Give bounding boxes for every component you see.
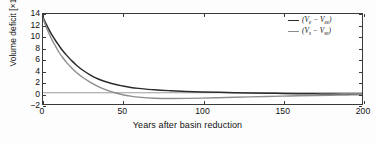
y-tick-mark — [359, 14, 362, 15]
x-tick-mark — [43, 14, 44, 17]
y-tick-mark — [43, 37, 46, 38]
y-tick-label: −2 — [30, 101, 40, 109]
x-tick-mark — [204, 14, 205, 17]
y-tick-mark — [43, 49, 46, 50]
x-tick-mark — [284, 14, 285, 17]
figure: Volume deficit [×106 m³] 14121086420−2 0… — [0, 0, 375, 144]
x-tick-label: 150 — [276, 106, 290, 116]
legend-color-swatch — [288, 31, 299, 32]
legend-color-swatch — [288, 20, 299, 21]
y-axis-label: Volume deficit [×106 m³] — [3, 0, 17, 69]
y-tick-label: 12 — [30, 21, 40, 29]
y-tick-label: 10 — [30, 32, 40, 40]
y-tick-label: 14 — [30, 9, 40, 17]
y-tick-mark — [43, 83, 46, 84]
chart-legend: (Ve − Vee)(Vs − Vse) — [288, 16, 360, 38]
y-tick-label: 8 — [35, 44, 40, 52]
y-tick-label: 0 — [35, 90, 40, 98]
x-tick-mark — [123, 14, 124, 17]
x-axis-label: Years after basin reduction — [0, 120, 375, 130]
y-tick-mark — [359, 95, 362, 96]
y-tick-mark — [43, 26, 46, 27]
x-tick-mark — [364, 101, 365, 104]
y-tick-mark — [359, 49, 362, 50]
y-axis-tick-labels: 14121086420−2 — [18, 13, 40, 105]
legend-label: (Ve − Vee) — [302, 15, 332, 25]
x-tick-mark — [43, 101, 44, 104]
legend-item: (Vs − Vse) — [288, 27, 360, 36]
y-tick-mark — [43, 60, 46, 61]
legend-label: (Vs − Vse) — [302, 26, 331, 36]
y-tick-mark — [359, 83, 362, 84]
x-tick-mark — [284, 101, 285, 104]
y-tick-mark — [359, 60, 362, 61]
y-tick-mark — [43, 72, 46, 73]
x-tick-label: 0 — [40, 106, 45, 116]
x-tick-label: 100 — [195, 106, 209, 116]
x-axis-tick-labels: 050100150200 — [42, 106, 363, 118]
x-tick-mark — [364, 14, 365, 17]
y-tick-label: 4 — [35, 67, 40, 75]
x-tick-mark — [123, 101, 124, 104]
y-axis-label-base: Volume deficit [×10 — [8, 0, 18, 67]
y-tick-label: 2 — [35, 78, 40, 86]
y-tick-mark — [43, 95, 46, 96]
y-tick-mark — [359, 72, 362, 73]
x-tick-label: 200 — [356, 106, 370, 116]
x-tick-label: 50 — [117, 106, 127, 116]
x-tick-mark — [204, 101, 205, 104]
y-tick-label: 6 — [35, 55, 40, 63]
legend-item: (Ve − Vee) — [288, 16, 360, 25]
